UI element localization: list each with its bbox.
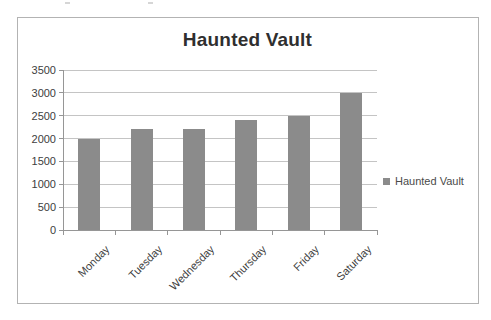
x-axis-tick [220,230,221,235]
x-axis-tick [377,230,378,235]
bar [288,116,310,230]
bar [340,93,362,230]
gridline [63,138,377,139]
x-axis-tick [167,230,168,235]
gridline [63,184,377,185]
y-axis-label: 2000 [32,133,56,146]
gridline [63,92,377,93]
bar [235,120,257,230]
x-axis-tick [272,230,273,235]
y-axis-line [63,70,64,231]
x-axis-tick [324,230,325,235]
crop-artifact [65,2,70,4]
bar [183,129,205,230]
y-axis-label: 1500 [32,155,56,168]
chart-title: Haunted Vault [17,29,478,51]
legend-marker [383,178,390,185]
crop-artifact [148,2,153,4]
y-axis-label: 2500 [32,110,56,123]
gridline [63,70,377,71]
y-axis-label: 1000 [32,178,56,191]
gridline [63,161,377,162]
gridline [63,115,377,116]
y-axis-label: 0 [50,224,56,237]
x-axis-tick [63,230,64,235]
gridline [63,207,377,208]
bar [131,129,153,230]
legend-label: Haunted Vault [395,175,464,187]
y-axis-label: 3000 [32,87,56,100]
y-axis-label: 3500 [32,64,56,77]
chart-canvas: Haunted Vault Haunted Vault 050010001500… [0,0,491,320]
y-axis-label: 500 [38,201,56,214]
bar [78,139,100,230]
x-axis-tick [115,230,116,235]
legend: Haunted Vault [383,175,464,187]
